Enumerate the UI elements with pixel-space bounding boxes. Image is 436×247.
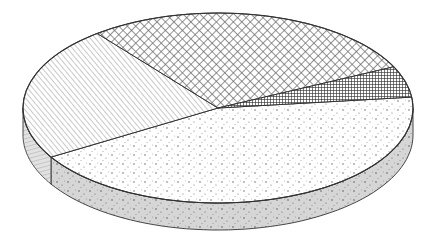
- pie-top-slices: [23, 13, 413, 203]
- pie-chart-3d: [0, 0, 436, 247]
